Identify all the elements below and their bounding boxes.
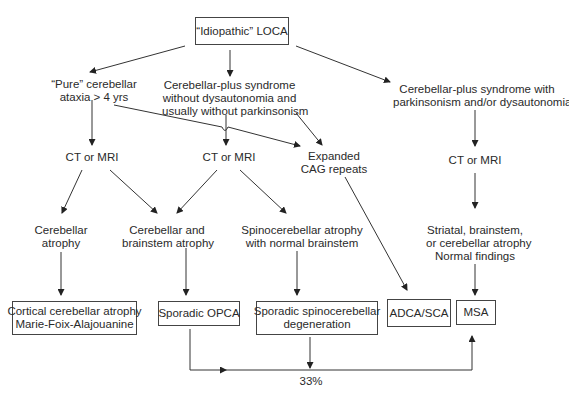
node-label-line: atrophy bbox=[28, 237, 94, 250]
node-label-line: Cerebellar and bbox=[122, 224, 212, 237]
node-label: CT or MRI bbox=[56, 151, 128, 164]
flowchart-canvas: “Idiopathic” LOCA “Pure” cerebellar atax… bbox=[0, 0, 569, 396]
outcome-msa: MSA bbox=[456, 300, 496, 325]
outcome-sporadic-spinocerebellar-degeneration: Sporadic spinocerebellar degeneration bbox=[256, 301, 378, 335]
node-label-line: ataxia > 4 yrs bbox=[34, 91, 154, 104]
node-label-line: brainstem atrophy bbox=[122, 237, 212, 250]
node-label-line: or cerebellar atrophy bbox=[426, 237, 524, 250]
node-label-line: with normal brainstem bbox=[240, 237, 364, 250]
outcome-sporadic-opca: Sporadic OPCA bbox=[158, 301, 240, 326]
node-label-line: Sporadic spinocerebellar bbox=[254, 305, 381, 318]
branch-cerebellar-plus-with-parkinsonism: Cerebellar-plus syndrome with parkinsoni… bbox=[393, 83, 561, 109]
node-label: CT or MRI bbox=[439, 154, 511, 167]
node-label: CT or MRI bbox=[193, 151, 265, 164]
conversion-percentage-label: 33% bbox=[296, 375, 326, 388]
outcome-adca-sca: ADCA/SCA bbox=[387, 299, 451, 327]
node-label-line: without dysautonomia and bbox=[162, 92, 297, 105]
branch-pure-cerebellar-ataxia: “Pure” cerebellar ataxia > 4 yrs bbox=[34, 78, 154, 104]
finding-cerebellar-atrophy: Cerebellar atrophy bbox=[28, 224, 94, 250]
imaging-ct-or-mri-3: CT or MRI bbox=[439, 154, 511, 167]
node-label-line: degeneration bbox=[283, 318, 350, 331]
imaging-ct-or-mri-1: CT or MRI bbox=[56, 151, 128, 164]
node-label-line: Normal findings bbox=[426, 250, 524, 263]
outcome-cortical-cerebellar-atrophy: Cortical cerebellar atrophy Marie-Foix-A… bbox=[12, 301, 137, 335]
node-label-line: Cerebellar bbox=[28, 224, 94, 237]
node-label-line: parkinsonism and/or dysautonomia bbox=[393, 96, 561, 109]
node-label-line: Expanded bbox=[296, 150, 372, 163]
node-label: “Idiopathic” LOCA bbox=[196, 25, 287, 38]
imaging-ct-or-mri-2: CT or MRI bbox=[193, 151, 265, 164]
node-label-line: usually without parkinsonism bbox=[162, 105, 297, 118]
root-node-idiopathic-loca: “Idiopathic” LOCA bbox=[195, 17, 289, 45]
node-label: 33% bbox=[296, 375, 326, 388]
finding-striatal-brainstem-cerebellar: Striatal, brainstem, or cerebellar atrop… bbox=[426, 224, 524, 263]
node-label-line: Cerebellar-plus syndrome bbox=[162, 79, 297, 92]
expanded-cag-repeats: Expanded CAG repeats bbox=[296, 150, 372, 176]
finding-spinocerebellar-atrophy: Spinocerebellar atrophy with normal brai… bbox=[240, 224, 364, 250]
node-label-line: Sporadic OPCA bbox=[158, 307, 239, 320]
node-label-line: CAG repeats bbox=[296, 163, 372, 176]
node-label-line: Marie-Foix-Alajouanine bbox=[15, 318, 133, 331]
node-label-line: MSA bbox=[464, 306, 489, 319]
node-label-line: Striatal, brainstem, bbox=[426, 224, 524, 237]
node-label-line: Cortical cerebellar atrophy bbox=[7, 305, 141, 318]
node-label-line: ADCA/SCA bbox=[390, 307, 449, 320]
node-label-line: Spinocerebellar atrophy bbox=[240, 224, 364, 237]
branch-cerebellar-plus-without-dysautonomia: Cerebellar-plus syndrome without dysauto… bbox=[162, 79, 297, 118]
connector-lines bbox=[0, 0, 569, 396]
node-label-line: Cerebellar-plus syndrome with bbox=[393, 83, 561, 96]
finding-cerebellar-and-brainstem-atrophy: Cerebellar and brainstem atrophy bbox=[122, 224, 212, 250]
node-label-line: “Pure” cerebellar bbox=[34, 78, 154, 91]
